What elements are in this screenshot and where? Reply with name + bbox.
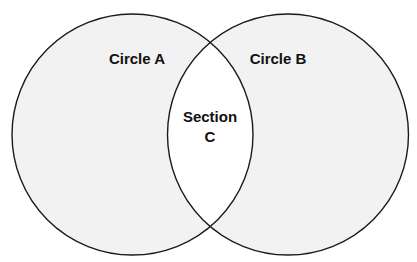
section-c-label-line2: C: [205, 128, 216, 145]
section-c-label-line1: Section: [183, 108, 237, 125]
venn-diagram: Circle A Circle B Section C: [0, 0, 417, 262]
circle-b-label: Circle B: [250, 50, 307, 67]
venn-diagram-svg: Circle A Circle B Section C: [0, 0, 417, 262]
circle-a-label: Circle A: [109, 50, 165, 67]
